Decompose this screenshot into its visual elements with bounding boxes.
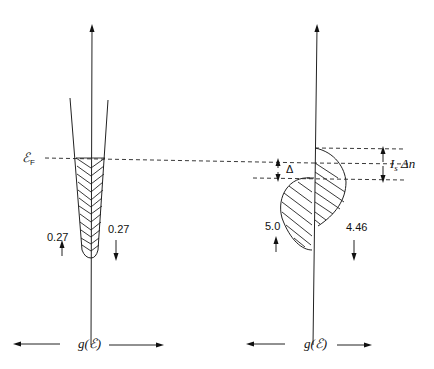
spin-up-value-right: 5.0: [265, 220, 280, 232]
band-edge-left-up: [70, 98, 91, 258]
right-panel: Δ Is Δn 5.0 4.46 g(ℰ): [250, 28, 415, 351]
energy-axis-left: [91, 28, 92, 345]
dos-label-right: g(ℰ): [304, 336, 327, 351]
spin-down-value-right: 4.46: [346, 221, 367, 233]
delta-label: Δ: [286, 163, 294, 175]
spin-down-band-right: [315, 148, 346, 226]
fermi-level-line: [45, 158, 313, 163]
band-edge-left-down: [91, 100, 108, 258]
spin-up-band-top-line: [253, 178, 405, 180]
spin-down-value-left: 0.27: [108, 223, 129, 235]
left-panel: ℰF 0.27 0.27 g(ℰ): [17, 28, 160, 351]
spin-down-band-top-line: [315, 148, 405, 149]
spin-down-hatch-right: [315, 163, 345, 224]
energy-axis-right: [313, 28, 317, 345]
spin-up-hatch-right: [282, 182, 312, 247]
dos-label-left: g(ℰ): [78, 336, 101, 351]
spin-up-value-left: 0.27: [47, 231, 68, 243]
exchange-splitting-label: Is Δn: [389, 156, 415, 173]
fermi-level-label: ℰF: [22, 150, 35, 167]
density-of-states-diagram: ℰF 0.27 0.27 g(ℰ): [0, 0, 434, 369]
